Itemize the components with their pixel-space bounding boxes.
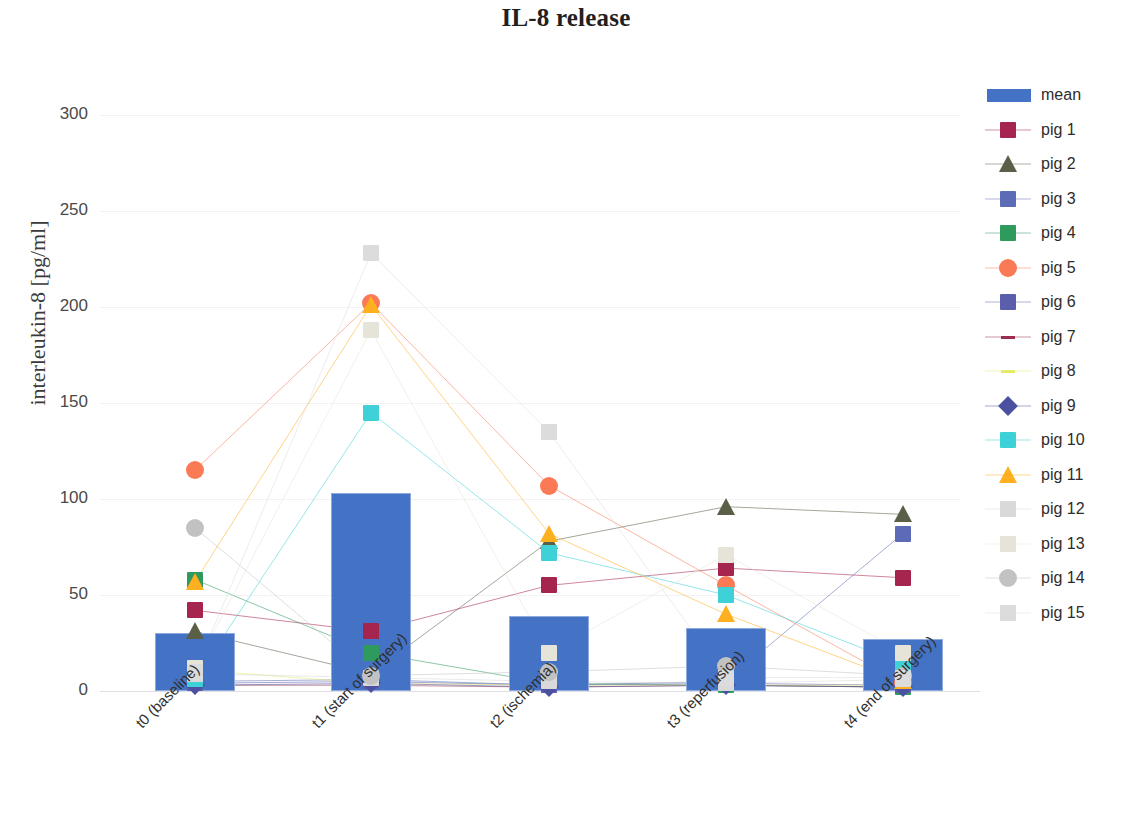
legend-item[interactable]: pig 12 [985,492,1132,527]
data-point [186,461,204,479]
legend-label: pig 12 [1041,500,1085,518]
legend-marker-icon [1000,536,1016,552]
legend-label: pig 9 [1041,397,1076,415]
legend: meanpig 1pig 2pig 3pig 4pig 5pig 6pig 7p… [985,78,1132,630]
legend-marker-icon [999,466,1017,483]
data-point [540,477,558,495]
data-point [718,547,734,563]
legend-label: pig 11 [1041,466,1083,484]
legend-key [985,224,1031,242]
data-point [186,519,204,537]
legend-key [985,397,1031,415]
data-point [718,587,734,603]
gridline [100,403,960,404]
legend-label: pig 15 [1041,604,1085,622]
data-point [540,525,558,542]
legend-label: pig 8 [1041,362,1076,380]
legend-label: pig 2 [1041,155,1076,173]
legend-label: pig 5 [1041,259,1076,277]
legend-key [985,86,1031,104]
legend-label: mean [1041,86,1081,104]
legend-item[interactable]: pig 5 [985,251,1132,286]
legend-marker-icon [1000,191,1016,207]
legend-key [985,328,1031,346]
legend-key [985,431,1031,449]
data-point [186,622,204,639]
y-tick-label: 150 [28,392,88,412]
data-point [895,526,911,542]
data-point [895,570,911,586]
y-tick-label: 200 [28,296,88,316]
legend-item[interactable]: mean [985,78,1132,113]
legend-marker-icon [1000,605,1016,621]
legend-item[interactable]: pig 11 [985,458,1132,493]
legend-label: pig 6 [1041,293,1076,311]
y-tick-label: 100 [28,488,88,508]
series-line [195,253,903,677]
chart-title: IL-8 release [0,4,1132,32]
gridline [100,499,960,500]
x-axis-line [100,691,980,692]
gridline [100,595,960,596]
y-tick-label: 0 [28,680,88,700]
gridline [100,307,960,308]
data-point [541,645,557,661]
legend-label: pig 3 [1041,190,1076,208]
legend-key [985,500,1031,518]
legend-item[interactable]: pig 14 [985,561,1132,596]
legend-item[interactable]: pig 10 [985,423,1132,458]
legend-marker-icon [1001,336,1015,339]
legend-key [985,569,1031,587]
legend-item[interactable]: pig 7 [985,320,1132,355]
legend-key [985,121,1031,139]
legend-label: pig 10 [1041,431,1085,449]
legend-marker-icon [1000,294,1016,310]
legend-item[interactable]: pig 8 [985,354,1132,389]
legend-marker-icon [1000,501,1016,517]
legend-item[interactable]: pig 4 [985,216,1132,251]
data-point [362,296,380,313]
legend-label: pig 4 [1041,224,1076,242]
legend-key [985,362,1031,380]
legend-key [985,155,1031,173]
data-point [541,577,557,593]
legend-marker-icon [998,396,1018,416]
data-point [894,505,912,522]
legend-key [985,293,1031,311]
legend-label: pig 13 [1041,535,1085,553]
legend-marker-icon [1000,225,1016,241]
y-tick-label: 250 [28,200,88,220]
legend-item[interactable]: pig 9 [985,389,1132,424]
legend-label: pig 7 [1041,328,1076,346]
data-point [541,545,557,561]
data-point [541,424,557,440]
gridline [100,211,960,212]
legend-marker-icon [1000,122,1016,138]
legend-item[interactable]: pig 1 [985,113,1132,148]
data-point [363,623,379,639]
data-point [363,405,379,421]
legend-item[interactable]: pig 6 [985,285,1132,320]
legend-marker-icon [1000,432,1016,448]
y-tick-label: 300 [28,104,88,124]
chart-container: IL-8 release interleukin-8 [pg/ml] 05010… [0,0,1132,826]
legend-swatch-icon [987,89,1031,102]
legend-item[interactable]: pig 2 [985,147,1132,182]
legend-item[interactable]: pig 3 [985,182,1132,217]
data-point [717,605,735,622]
data-point [186,573,204,590]
legend-label: pig 1 [1041,121,1076,139]
legend-item[interactable]: pig 15 [985,596,1132,631]
legend-key [985,190,1031,208]
gridline [100,115,960,116]
legend-marker-icon [1001,370,1015,373]
legend-key [985,259,1031,277]
legend-key [985,604,1031,622]
legend-key [985,466,1031,484]
y-tick-label: 50 [28,584,88,604]
data-point [187,602,203,618]
legend-item[interactable]: pig 13 [985,527,1132,562]
legend-marker-icon [999,155,1017,172]
legend-label: pig 14 [1041,569,1085,587]
legend-key [985,535,1031,553]
